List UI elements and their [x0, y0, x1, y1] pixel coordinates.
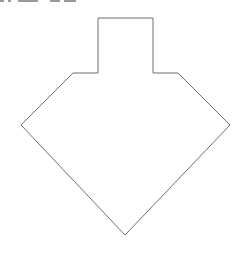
- house-shape: [21, 18, 230, 235]
- diagram-canvas: [0, 0, 251, 257]
